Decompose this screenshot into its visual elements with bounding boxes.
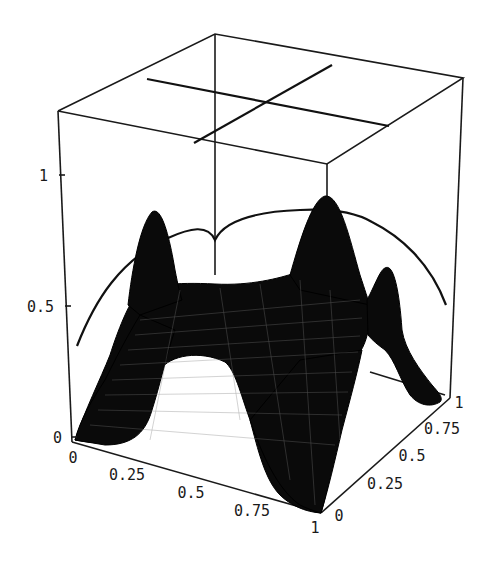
top-crosshair [147, 65, 389, 143]
z-tick-label: 1 [39, 167, 48, 185]
y-tick-label: 0.25 [367, 475, 403, 493]
y-tick-label: 0 [334, 507, 343, 525]
y-tick-label: 0.5 [398, 447, 425, 465]
x-tick-label: 0 [68, 449, 77, 467]
z-tick-label: 0.5 [27, 298, 54, 316]
z-axis: 1 0.5 0 [27, 167, 77, 447]
y-tick-label: 0.75 [424, 420, 460, 438]
y-tick-label: 1 [454, 394, 463, 412]
x-tick-label: 0.75 [234, 502, 270, 520]
x-tick-label: 0.5 [177, 484, 204, 502]
y-axis: 0 0.25 0.5 0.75 1 [334, 394, 463, 525]
x-tick-label: 1 [310, 519, 319, 537]
x-tick-label: 0.25 [109, 466, 145, 484]
z-tick-label: 0 [53, 429, 62, 447]
surface-plot: 1 0.5 0 0 0.25 0.5 0.75 1 0 0.25 0.5 0.7… [0, 0, 496, 562]
